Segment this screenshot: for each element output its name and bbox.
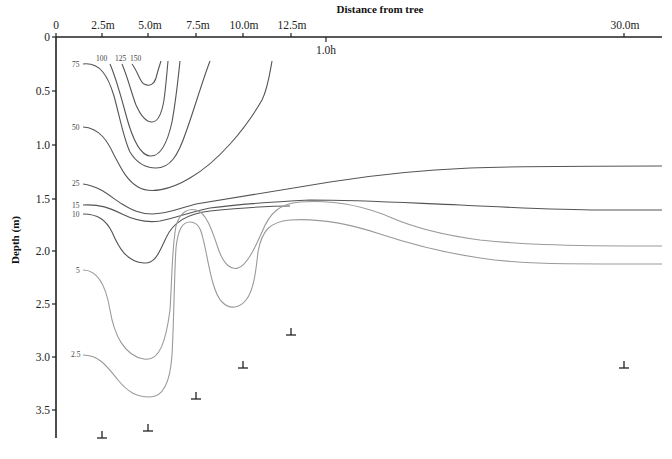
contour-125 <box>122 61 168 122</box>
contour-100 <box>110 61 180 156</box>
one-h-annotation: 1.0h <box>316 44 336 56</box>
svg-text:3.0: 3.0 <box>36 351 51 363</box>
marker-icon <box>191 392 201 399</box>
svg-text:5: 5 <box>76 266 80 275</box>
y-axis-title: Depth (m) <box>9 216 22 264</box>
svg-text:0: 0 <box>53 19 59 31</box>
x-axis-title: Distance from tree <box>337 3 424 15</box>
marker-icon <box>286 328 296 335</box>
svg-text:1.0: 1.0 <box>36 139 51 151</box>
contour-chart: Distance from tree Depth (m) 0 2.5m 5.0m… <box>0 0 672 459</box>
svg-text:5.0m: 5.0m <box>138 19 161 31</box>
svg-text:0.5: 0.5 <box>36 85 51 97</box>
marker-icon <box>97 431 107 438</box>
contour-75 <box>83 61 210 168</box>
svg-text:150: 150 <box>130 54 142 63</box>
svg-text:2.5: 2.5 <box>36 298 51 310</box>
svg-text:2.0: 2.0 <box>36 245 51 257</box>
svg-text:0: 0 <box>44 31 50 43</box>
svg-text:2.5: 2.5 <box>71 350 81 359</box>
svg-text:50: 50 <box>72 123 80 132</box>
svg-text:125: 125 <box>115 54 127 63</box>
contour-5 <box>83 202 662 360</box>
svg-text:75: 75 <box>72 60 80 69</box>
marker-icon <box>619 361 629 368</box>
svg-text:12.5m: 12.5m <box>277 19 306 31</box>
svg-text:100: 100 <box>96 54 108 63</box>
svg-text:7.5m: 7.5m <box>186 19 209 31</box>
y-tick-labels: 0 0.5 1.0 1.5 2.0 2.5 3.0 3.5 <box>36 31 51 416</box>
svg-text:30.0m: 30.0m <box>610 19 639 31</box>
svg-text:10: 10 <box>72 210 80 219</box>
contour-labels: 100 125 150 75 50 25 15 10 5 2.5 <box>71 54 142 359</box>
contour-150 <box>132 61 161 85</box>
marker-icon <box>238 361 248 368</box>
svg-text:2.5m: 2.5m <box>91 19 114 31</box>
svg-text:15: 15 <box>72 201 80 210</box>
svg-text:1.5: 1.5 <box>36 193 51 205</box>
svg-text:3.5: 3.5 <box>36 404 51 416</box>
measurement-markers <box>97 328 629 438</box>
svg-text:10.0m: 10.0m <box>229 19 258 31</box>
svg-text:25: 25 <box>72 179 80 188</box>
contour-25 <box>83 166 662 214</box>
dark-contours <box>83 61 662 263</box>
marker-icon <box>143 424 153 431</box>
